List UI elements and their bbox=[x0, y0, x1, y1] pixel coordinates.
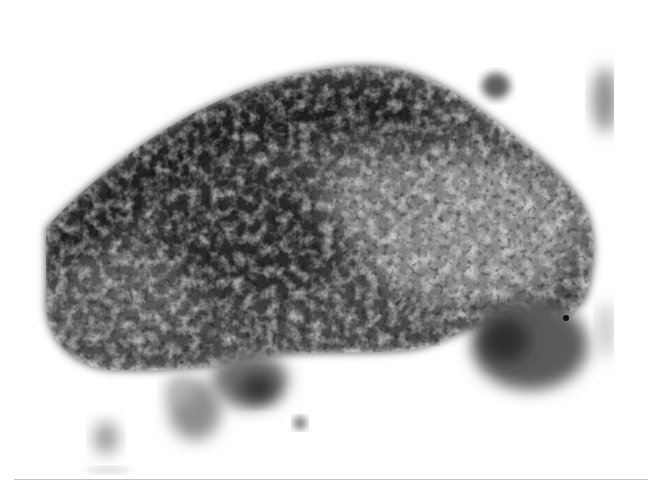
main-cell-mass bbox=[0, 0, 654, 498]
micrograph-frame bbox=[0, 0, 654, 498]
micrograph-image bbox=[0, 0, 654, 498]
image-bottom-border bbox=[14, 479, 648, 480]
